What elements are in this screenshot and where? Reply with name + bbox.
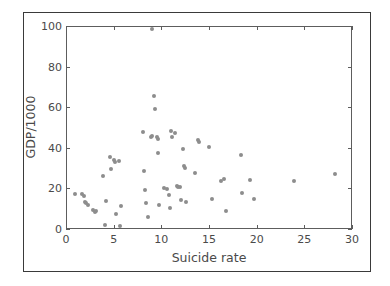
- x-axis-tick-top: [352, 26, 353, 30]
- data-point: [86, 203, 90, 207]
- y-tick-label: 20: [34, 183, 62, 194]
- data-point: [292, 179, 296, 183]
- x-tick-label: 10: [154, 234, 168, 245]
- y-axis-title: GDP/1000: [23, 96, 38, 159]
- data-point: [222, 177, 226, 181]
- data-point: [207, 145, 211, 149]
- data-point: [165, 187, 169, 191]
- data-point: [168, 206, 172, 210]
- data-point: [197, 140, 201, 144]
- data-point: [118, 224, 122, 228]
- x-tick-label: 0: [63, 234, 70, 245]
- y-tick-label: 80: [34, 61, 62, 72]
- data-point: [183, 166, 187, 170]
- y-tick-label: 40: [34, 142, 62, 153]
- data-point: [152, 94, 156, 98]
- data-point: [104, 199, 108, 203]
- data-point: [248, 178, 252, 182]
- x-tick-label: 15: [202, 234, 216, 245]
- data-point: [73, 192, 77, 196]
- data-point: [150, 27, 154, 31]
- data-point: [210, 197, 214, 201]
- data-point: [181, 147, 185, 151]
- data-point: [157, 203, 161, 207]
- data-point: [150, 134, 154, 138]
- data-point: [114, 212, 118, 216]
- data-point: [142, 169, 146, 173]
- data-point: [82, 194, 86, 198]
- y-tick-label: 60: [34, 102, 62, 113]
- data-point: [113, 160, 117, 164]
- y-tick-label: 0: [34, 224, 62, 235]
- data-point: [103, 223, 107, 227]
- data-point: [94, 209, 98, 213]
- y-axis-tick-right: [348, 229, 352, 230]
- data-point: [156, 151, 160, 155]
- data-point: [167, 193, 171, 197]
- x-tick-label: 30: [345, 234, 359, 245]
- data-point: [117, 159, 121, 163]
- data-point: [141, 130, 145, 134]
- data-point: [101, 174, 105, 178]
- data-point: [146, 215, 150, 219]
- data-point: [178, 185, 182, 189]
- x-tick-label: 5: [110, 234, 117, 245]
- data-point: [119, 204, 123, 208]
- scatter-plot-figure: 051015202530020406080100 Suicide rate GD…: [0, 0, 390, 286]
- data-point: [143, 188, 147, 192]
- x-axis-tick: [352, 225, 353, 229]
- data-point: [193, 171, 197, 175]
- data-point: [333, 172, 337, 176]
- data-point: [156, 137, 160, 141]
- data-point: [170, 135, 174, 139]
- x-tick-label: 25: [297, 234, 311, 245]
- x-axis-title: Suicide rate: [172, 250, 247, 265]
- data-point: [239, 153, 243, 157]
- data-point: [109, 167, 113, 171]
- data-point: [184, 200, 188, 204]
- data-point: [144, 201, 148, 205]
- data-point: [240, 191, 244, 195]
- data-point: [179, 198, 183, 202]
- data-point: [153, 107, 157, 111]
- x-tick-label: 20: [250, 234, 264, 245]
- y-tick-label: 100: [34, 21, 62, 32]
- data-point: [173, 131, 177, 135]
- y-axis-tick: [66, 229, 70, 230]
- data-point: [224, 209, 228, 213]
- data-point: [252, 197, 256, 201]
